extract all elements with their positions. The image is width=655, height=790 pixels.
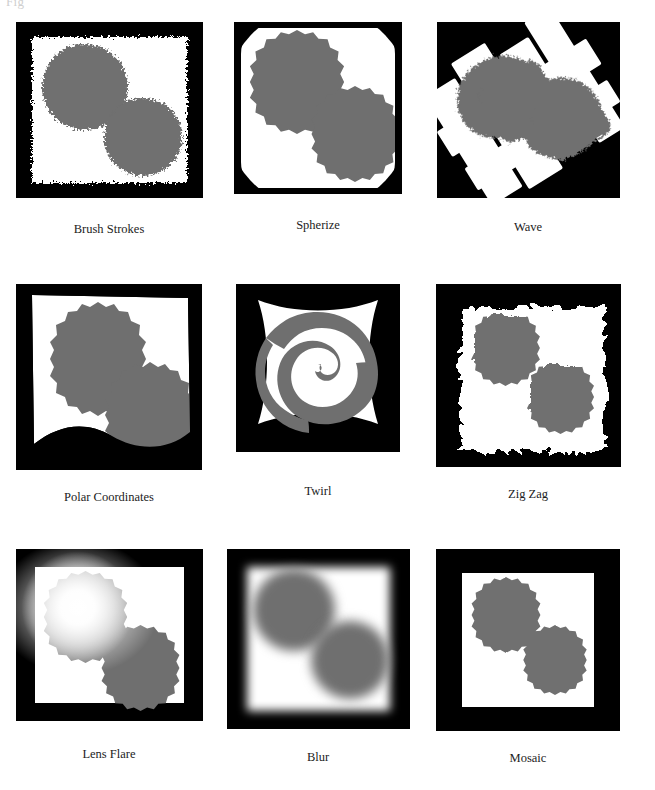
- running-head: Fig: [6, 0, 24, 10]
- panel-caption: Wave: [418, 220, 638, 235]
- panel-caption: Zig Zag: [418, 487, 638, 502]
- panel-caption: Twirl: [218, 484, 418, 499]
- twirl-spiral-art: [236, 284, 400, 452]
- gear-shape-small: [311, 621, 389, 699]
- panel-caption: Lens Flare: [0, 747, 218, 762]
- panel-mosaic: Mosaic: [418, 549, 638, 790]
- wave-distortion-art: [437, 22, 620, 198]
- figure-grid: Brush Strokes Spherize: [0, 22, 655, 790]
- panel-zig-zag: Zig Zag: [418, 284, 638, 549]
- panel-caption: Polar Coordinates: [0, 490, 218, 505]
- polar-distortion-art: [16, 284, 202, 470]
- panel-twirl: Twirl: [218, 284, 418, 549]
- panel-caption: Brush Strokes: [0, 222, 218, 237]
- thumbnail-blur: [227, 549, 410, 729]
- thumbnail-polar-coordinates: [16, 284, 202, 470]
- thumbnail-wave: [437, 22, 620, 198]
- panel-caption: Spherize: [218, 218, 418, 233]
- panel-blur: Blur: [218, 549, 418, 790]
- thumbnail-brush-strokes: [16, 22, 203, 198]
- thumbnail-mosaic: [436, 549, 620, 731]
- panel-caption: Blur: [218, 750, 418, 765]
- thumbnail-lens-flare: [16, 549, 203, 721]
- panel-brush-strokes: Brush Strokes: [0, 22, 218, 284]
- thumbnail-zig-zag: [436, 284, 621, 467]
- thumbnail-twirl: [236, 284, 400, 452]
- panel-spherize: Spherize: [218, 22, 418, 284]
- thumbnail-spherize: [234, 22, 402, 194]
- panel-caption: Mosaic: [418, 751, 638, 766]
- gear-shape-small: [104, 98, 182, 176]
- panel-polar-coordinates: Polar Coordinates: [0, 284, 218, 549]
- panel-wave: Wave: [418, 22, 638, 284]
- panel-lens-flare: Lens Flare: [0, 549, 218, 790]
